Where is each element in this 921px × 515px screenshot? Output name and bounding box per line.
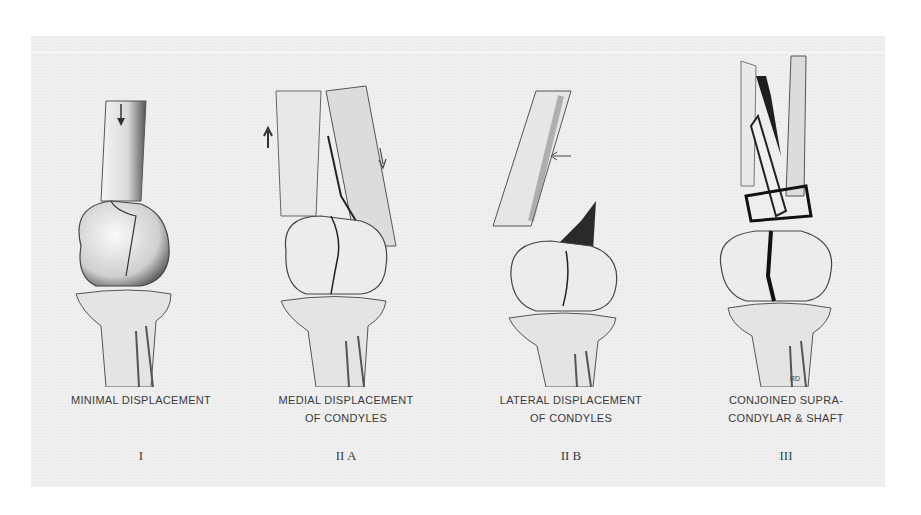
knee-illustration-type-3 [686,36,886,387]
illustrator-signature: RD [790,375,800,382]
panel-medial-displacement: Medial displacement of condyles II A [246,36,446,487]
panel-minimal-displacement: Minimal displacement I [41,36,241,487]
caption-line: of condyles [471,409,671,427]
numeral-panel-2a: II A [246,448,446,464]
numeral-panel-3: III [686,448,886,464]
knee-illustration-type-2b [471,36,671,387]
knee-illustration-type-2a [246,36,446,387]
panel-conjoined-supracondylar-shaft: RD Conjoined supra- condylar & shaft III [686,36,886,487]
caption-line: of condyles [246,409,446,427]
caption-panel-2a: Medial displacement of condyles [246,391,446,427]
caption-line: condylar & shaft [686,409,886,427]
figure-plate: Minimal displacement I Medial displaceme… [31,36,885,487]
numeral-panel-1: I [41,448,241,464]
caption-line: Lateral displacement [471,391,671,409]
caption-panel-2b: Lateral displacement of condyles [471,391,671,427]
panel-lateral-displacement: Lateral displacement of condyles II B [471,36,671,487]
knee-illustration-type-1 [41,36,241,387]
numeral-panel-2b: II B [471,448,671,464]
caption-line: Minimal displacement [41,391,241,409]
caption-panel-3: Conjoined supra- condylar & shaft [686,391,886,427]
caption-line: Medial displacement [246,391,446,409]
caption-panel-1: Minimal displacement [41,391,241,409]
caption-line: Conjoined supra- [686,391,886,409]
